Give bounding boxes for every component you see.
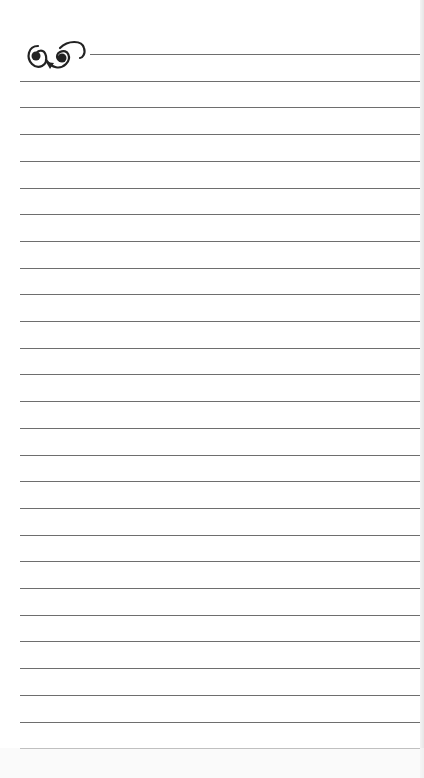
ruled-line — [20, 401, 421, 402]
ruled-line — [20, 641, 421, 642]
ruled-line — [20, 294, 421, 295]
ruled-line — [20, 588, 421, 589]
ruled-line — [20, 81, 421, 82]
ruled-line — [20, 188, 421, 189]
ruled-line — [20, 241, 421, 242]
ruled-line — [20, 214, 421, 215]
ruled-line — [20, 268, 421, 269]
ruled-line — [20, 321, 421, 322]
ruled-line — [20, 695, 421, 696]
page-edge — [420, 0, 424, 778]
ruled-line — [20, 374, 421, 375]
ruled-line — [20, 722, 421, 723]
ruled-line — [90, 54, 421, 55]
ruled-line — [20, 161, 421, 162]
ruled-line — [20, 535, 421, 536]
notebook-page — [0, 0, 424, 778]
page-bottom-shade — [0, 748, 424, 778]
ruled-line — [20, 508, 421, 509]
ruled-line — [20, 107, 421, 108]
ruled-line — [20, 668, 421, 669]
ruled-line — [20, 428, 421, 429]
flourish-ornament-icon — [24, 38, 90, 74]
ruled-line — [20, 455, 421, 456]
ruled-line — [20, 615, 421, 616]
ruled-line — [20, 561, 421, 562]
ruled-line — [20, 348, 421, 349]
ruled-line — [20, 134, 421, 135]
ruled-line — [20, 481, 421, 482]
